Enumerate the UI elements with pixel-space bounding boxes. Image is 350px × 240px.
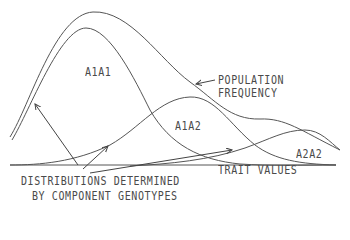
arrow-to-a1a2: [83, 146, 108, 169]
label-population-line2: FREQUENCY: [218, 87, 278, 100]
arrow-to-population: [196, 80, 215, 84]
label-distributions-line1: DISTRIBUTIONS DETERMINED: [21, 175, 180, 188]
label-a2a2: A2A2: [296, 148, 322, 161]
a1a2-curve: [10, 97, 336, 165]
label-trait-values: TRAIT VALUES: [218, 164, 297, 177]
label-a1a1: A1A1: [85, 66, 111, 79]
arrow-to-a2a2: [90, 150, 232, 173]
a1a1-curve: [12, 28, 336, 165]
label-distributions-line2: BY COMPONENT GENOTYPES: [32, 190, 178, 203]
label-population-line1: POPULATION: [218, 74, 284, 87]
arrow-to-a1a1: [35, 104, 78, 165]
label-a1a2: A1A2: [175, 120, 201, 133]
